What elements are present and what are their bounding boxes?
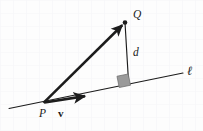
label-distance-d: d (133, 46, 139, 58)
right-angle-marker-icon (117, 74, 131, 88)
geometry-figure: P Q v d ℓ (0, 0, 203, 131)
label-line-l: ℓ (187, 64, 192, 78)
label-vector-v: v (58, 107, 64, 119)
label-point-q: Q (133, 8, 142, 20)
figure-canvas: P Q v d ℓ (0, 0, 203, 131)
background-grid (0, 0, 203, 131)
label-point-p: P (38, 107, 46, 119)
point-q-dot (123, 20, 128, 25)
